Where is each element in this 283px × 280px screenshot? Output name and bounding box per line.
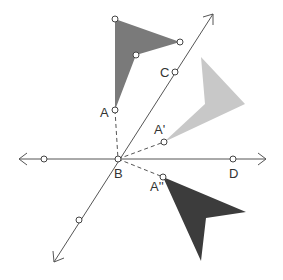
point-original-top: [112, 16, 118, 22]
point-lower-slant: [76, 217, 82, 223]
label-A-double-prime: A'': [150, 179, 164, 194]
label-D: D: [229, 166, 238, 181]
dashed-segment-BA-double-prime: [118, 159, 163, 177]
point-C: [172, 69, 178, 75]
point-original-notch: [133, 52, 139, 58]
point-original-right: [177, 39, 183, 45]
label-A: A: [100, 105, 109, 120]
point-B: [115, 156, 121, 162]
line-BD: [19, 153, 266, 165]
label-C: C: [160, 65, 169, 80]
point-A: [112, 107, 118, 113]
dashed-segment-AB: [115, 110, 118, 159]
image-A-double-prime: [163, 177, 246, 261]
point-A-prime: [161, 139, 167, 145]
reflection-diagram: A C A' B D A'': [0, 0, 283, 280]
label-B: B: [114, 166, 123, 181]
point-left: [41, 156, 47, 162]
point-D: [230, 156, 236, 162]
original-figure: [115, 19, 180, 110]
label-A-prime: A': [154, 122, 165, 137]
